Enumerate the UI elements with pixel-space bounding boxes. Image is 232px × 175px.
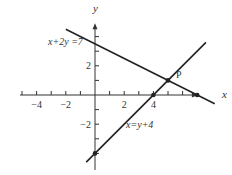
x-tick-label: −2: [60, 99, 71, 110]
y-tick-label: 2: [86, 60, 91, 71]
y-tick-label: −2: [80, 119, 91, 130]
coordinate-diagram: −4−2242−2 x y x+2y =7 x=y+4 P: [0, 0, 232, 175]
point-x-intercept-line2: [151, 93, 156, 98]
point-p: [166, 78, 171, 83]
line2-equation-label: x=y+4: [125, 119, 153, 130]
x-axis-label: x: [221, 88, 227, 100]
point-x-intercept-line1: [195, 93, 200, 98]
x-tick-label: 2: [122, 99, 127, 110]
x-tick-label: −4: [31, 99, 42, 110]
points: [93, 78, 200, 156]
line-x-eq-y-plus-4: [86, 42, 206, 162]
point-y-intercept-line2: [93, 151, 98, 156]
axes: [20, 23, 198, 170]
x-tick-label: 4: [151, 99, 156, 110]
point-p-label: P: [176, 69, 182, 80]
line1-equation-label: x+2y =7: [47, 36, 84, 47]
y-axis-arrow-icon: [93, 23, 98, 29]
y-axis-label: y: [92, 2, 98, 14]
